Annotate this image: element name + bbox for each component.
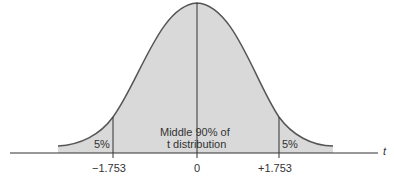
- t-distribution-diagram: [0, 0, 394, 180]
- right-tail-label: 5%: [282, 138, 298, 150]
- x-axis-label: t: [383, 145, 386, 157]
- left-tail-label: 5%: [94, 138, 110, 150]
- middle-label-1: Middle 90% of: [160, 126, 230, 138]
- middle-label-2: t distribution: [167, 138, 226, 150]
- tick-label-left: −1.753: [92, 162, 126, 174]
- tick-label-center: 0: [194, 162, 200, 174]
- tick-label-right: +1.753: [258, 162, 292, 174]
